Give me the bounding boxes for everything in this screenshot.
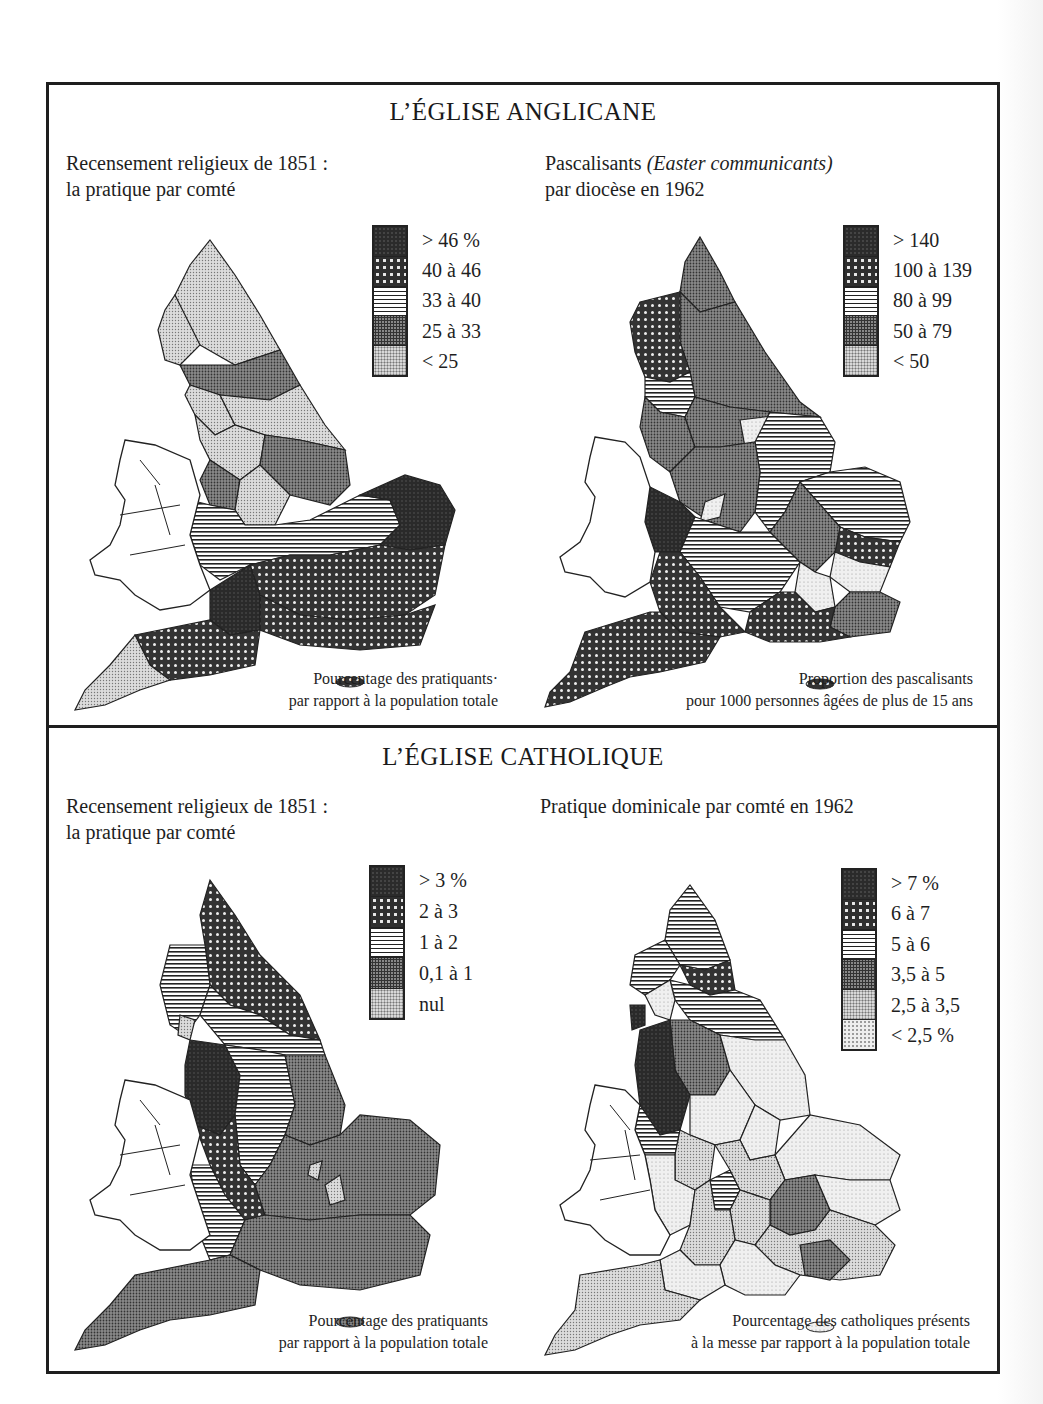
map-title-line1: Recensement religieux de 1851 : — [66, 793, 328, 819]
map-catholic-1851 — [60, 875, 480, 1355]
map-title-line2: la pratique par comté — [66, 819, 328, 845]
map-caption-catholic-1962: Pourcentage des catholiques présents à l… — [691, 1310, 970, 1354]
section-divider — [46, 725, 1000, 728]
title-italic-text: (Easter communicants) — [647, 152, 833, 174]
map-caption-anglican-1851: Pourcentage des pratiquants· par rapport… — [289, 668, 498, 712]
caption-line2: par rapport à la population totale — [279, 1332, 488, 1354]
page-edge-shadow — [997, 0, 1043, 1404]
caption-line2: à la messe par rapport à la population t… — [691, 1332, 970, 1354]
caption-line2: par rapport à la population totale — [289, 690, 498, 712]
map-title-line2: la pratique par comté — [66, 176, 328, 202]
caption-line1: Pourcentage des catholiques présents — [691, 1310, 970, 1332]
map-title-line1: Recensement religieux de 1851 : — [66, 150, 328, 176]
map-title-anglican-1962: Pascalisants (Easter communicants) par d… — [545, 150, 833, 202]
map-anglican-1962 — [530, 232, 950, 712]
map-title-line2: par diocèse en 1962 — [545, 176, 833, 202]
map-caption-catholic-1851: Pourcentage des pratiquants par rapport … — [279, 1310, 488, 1354]
caption-line1: Pourcentage des pratiquants — [279, 1310, 488, 1332]
caption-line1: Proportion des pascalisants — [686, 668, 973, 690]
map-title-line1: Pascalisants (Easter communicants) — [545, 150, 833, 176]
section-title-catholique: L’ÉGLISE CATHOLIQUE — [46, 743, 1000, 771]
map-anglican-1851 — [60, 235, 480, 715]
map-title-catholic-1851: Recensement religieux de 1851 : la prati… — [66, 793, 328, 845]
map-title-line1: Pratique dominicale par comté en 1962 — [540, 793, 854, 819]
caption-line1: Pourcentage des pratiquants· — [289, 668, 498, 690]
map-caption-anglican-1962: Proportion des pascalisants pour 1000 pe… — [686, 668, 973, 712]
map-catholic-1962 — [530, 880, 950, 1360]
caption-line2: pour 1000 personnes âgées de plus de 15 … — [686, 690, 973, 712]
title-text: Pascalisants — [545, 152, 647, 174]
section-title-anglicane: L’ÉGLISE ANGLICANE — [46, 98, 1000, 126]
map-title-anglican-1851: Recensement religieux de 1851 : la prati… — [66, 150, 328, 202]
map-title-catholic-1962: Pratique dominicale par comté en 1962 — [540, 793, 854, 819]
